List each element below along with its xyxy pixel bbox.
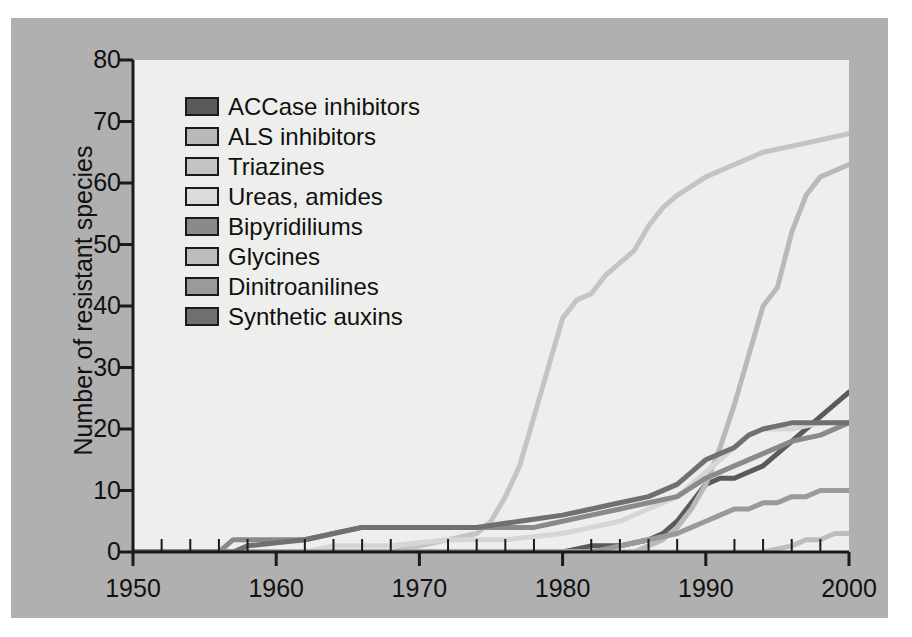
legend-item[interactable]: ALS inhibitors xyxy=(185,122,420,151)
legend-item-label: Glycines xyxy=(228,245,320,269)
x-axis-tick-label: 1950 xyxy=(88,576,178,601)
legend-item[interactable]: Synthetic auxins xyxy=(185,302,420,331)
chart-figure: Number of resistant species 010203040506… xyxy=(11,18,888,618)
legend-swatch-icon xyxy=(185,307,219,326)
x-axis-tick-label: 2000 xyxy=(804,576,894,601)
plot-panel: ACCase inhibitorsALS inhibitorsTriazines… xyxy=(133,60,849,552)
legend-item[interactable]: Triazines xyxy=(185,152,420,181)
legend-item-label: ALS inhibitors xyxy=(228,125,376,149)
legend-swatch-icon xyxy=(185,157,219,176)
chart-legend: ACCase inhibitorsALS inhibitorsTriazines… xyxy=(185,92,420,331)
legend-item-label: ACCase inhibitors xyxy=(228,95,420,119)
legend-swatch-icon xyxy=(185,217,219,236)
legend-item-label: Synthetic auxins xyxy=(228,305,403,329)
x-axis-tick-label: 1960 xyxy=(231,576,321,601)
legend-item-label: Triazines xyxy=(228,155,324,179)
legend-item[interactable]: ACCase inhibitors xyxy=(185,92,420,121)
legend-swatch-icon xyxy=(185,247,219,266)
x-axis-tick-label: 1970 xyxy=(374,576,464,601)
legend-swatch-icon xyxy=(185,97,219,116)
legend-swatch-icon xyxy=(185,277,219,296)
legend-item[interactable]: Ureas, amides xyxy=(185,182,420,211)
legend-item-label: Ureas, amides xyxy=(228,185,383,209)
x-axis-tick-label: 1990 xyxy=(661,576,751,601)
legend-item[interactable]: Bipyridiliums xyxy=(185,212,420,241)
legend-item-label: Bipyridiliums xyxy=(228,215,363,239)
legend-swatch-icon xyxy=(185,187,219,206)
legend-item[interactable]: Dinitroanilines xyxy=(185,272,420,301)
x-axis-tick-label: 1980 xyxy=(518,576,608,601)
legend-item[interactable]: Glycines xyxy=(185,242,420,271)
legend-swatch-icon xyxy=(185,127,219,146)
series-line xyxy=(133,423,849,552)
legend-item-label: Dinitroanilines xyxy=(228,275,379,299)
